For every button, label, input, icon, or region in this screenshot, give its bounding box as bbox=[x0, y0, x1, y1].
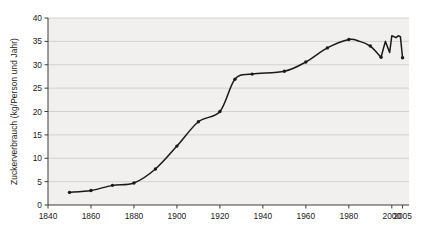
y-tick-label: 30 bbox=[33, 60, 43, 70]
data-point bbox=[326, 46, 329, 49]
data-point bbox=[283, 70, 286, 73]
y-tick-label: 5 bbox=[37, 177, 42, 187]
x-tick-label: 1960 bbox=[297, 211, 316, 221]
data-point bbox=[111, 184, 114, 187]
data-point bbox=[369, 44, 372, 47]
data-point bbox=[304, 60, 307, 63]
x-tick-label: 1980 bbox=[340, 211, 359, 221]
data-point bbox=[175, 144, 178, 147]
x-tick-label: 2005 bbox=[393, 211, 412, 221]
data-point bbox=[197, 120, 200, 123]
y-tick-label: 15 bbox=[33, 130, 43, 140]
chart-canvas: 0510152025303540 18401860188019001920194… bbox=[0, 0, 435, 242]
data-point bbox=[233, 78, 236, 81]
y-tick-label: 10 bbox=[33, 153, 43, 163]
x-tick-label: 1900 bbox=[168, 211, 187, 221]
data-point bbox=[68, 191, 71, 194]
data-point bbox=[89, 189, 92, 192]
x-tick-label: 1860 bbox=[82, 211, 101, 221]
y-tick-label: 0 bbox=[37, 200, 42, 210]
y-axis-label: Zuckerverbrauch (kg/Person und Jahr) bbox=[9, 38, 19, 185]
data-point bbox=[132, 181, 135, 184]
data-point bbox=[250, 72, 253, 75]
data-point bbox=[401, 56, 404, 59]
y-tick-label: 40 bbox=[33, 13, 43, 23]
x-tick-label: 1880 bbox=[125, 211, 144, 221]
x-tick-label: 1840 bbox=[39, 211, 58, 221]
data-point bbox=[379, 56, 382, 59]
y-tick-label: 25 bbox=[33, 83, 43, 93]
sugar-consumption-chart: 0510152025303540 18401860188019001920194… bbox=[0, 0, 435, 242]
data-point bbox=[218, 110, 221, 113]
x-tick-label: 1940 bbox=[254, 211, 273, 221]
x-axis-tick-labels: 1840186018801900192019401960198020002005 bbox=[39, 211, 413, 221]
data-point bbox=[154, 167, 157, 170]
y-tick-label: 20 bbox=[33, 107, 43, 117]
y-tick-label: 35 bbox=[33, 36, 43, 46]
x-tick-label: 1920 bbox=[211, 211, 230, 221]
data-point bbox=[347, 38, 350, 41]
